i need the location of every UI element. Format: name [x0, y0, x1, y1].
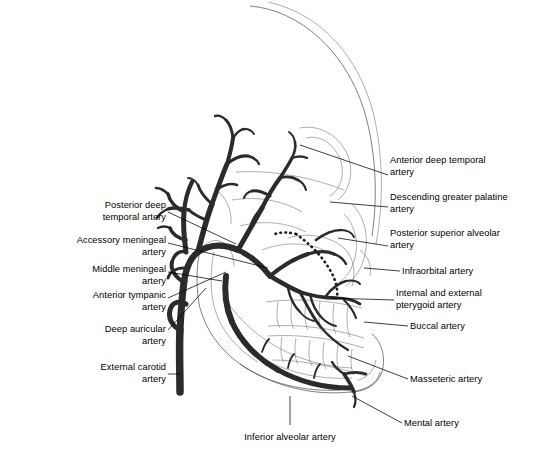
label-deep-auricular-artery: Deep auricular artery: [44, 324, 166, 347]
label-middle-meningeal-artery: Middle meningeal artery: [8, 264, 166, 287]
leader-infraorbital: [364, 268, 400, 271]
leader-anterior-deep-temporal: [300, 145, 388, 175]
label-descending-greater-palatine-artery: Descending greater palatine artery: [390, 192, 534, 215]
label-infraorbital-artery: Infraorbital artery: [402, 266, 532, 278]
leader-posterior-superior-alveolar: [338, 238, 388, 246]
leader-mental: [352, 396, 402, 423]
label-external-carotid-artery: External carotid artery: [32, 362, 166, 385]
label-internal-and-external-pterygoid-artery: Internal and external pterygoid artery: [396, 288, 532, 311]
label-anterior-tympanic-artery: Anterior tympanic artery: [44, 290, 166, 313]
label-inferior-alveolar-artery: Inferior alveolar artery: [224, 432, 356, 444]
arterial-tree: [156, 116, 366, 407]
label-accessory-meningeal-artery: Accessory meningeal artery: [8, 235, 166, 258]
leader-buccal: [364, 322, 408, 326]
label-posterior-superior-alveolar-artery: Posterior superior alveolar artery: [390, 228, 534, 251]
leader-descending-palatine: [330, 202, 388, 207]
label-posterior-deep-temporal-artery: Posterior deep temporal artery: [40, 200, 166, 223]
leader-masseteric: [348, 356, 408, 379]
cranium-outline: [250, 2, 381, 244]
label-anterior-deep-temporal-artery: Anterior deep temporal artery: [390, 155, 532, 178]
label-mental-artery: Mental artery: [404, 418, 526, 430]
label-buccal-artery: Buccal artery: [410, 321, 532, 333]
label-masseteric-artery: Masseteric artery: [410, 374, 532, 386]
